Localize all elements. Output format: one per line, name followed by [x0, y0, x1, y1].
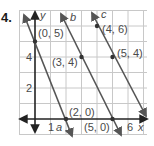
y-tick-2: 2	[26, 82, 32, 94]
line-b-label: b	[70, 11, 76, 23]
label-3-4: (3, 4)	[52, 56, 78, 68]
label-5-0: (5, 0)	[84, 121, 110, 133]
point-5-0	[110, 117, 114, 121]
line-a-label: a	[56, 121, 62, 133]
x-tick-1: 1	[48, 121, 54, 133]
coordinate-graph: y x 4 2 1 6 a b c (0, 5) (3, 4) (4, 6) (…	[0, 0, 154, 146]
point-0-5	[33, 39, 37, 43]
label-5-4: (5, 4)	[117, 47, 143, 59]
label-0-5: (0, 5)	[38, 27, 64, 39]
label-4-6: (4, 6)	[102, 23, 128, 35]
point-3-4	[79, 55, 83, 59]
x-axis-label: x	[137, 121, 144, 133]
x-tick-6: 6	[127, 121, 133, 133]
point-2-0	[64, 117, 68, 121]
y-tick-4: 4	[26, 51, 32, 63]
line-c-label: c	[101, 8, 107, 20]
point-5-4	[110, 55, 114, 59]
label-2-0: (2, 0)	[69, 106, 95, 118]
point-4-6	[95, 24, 99, 28]
